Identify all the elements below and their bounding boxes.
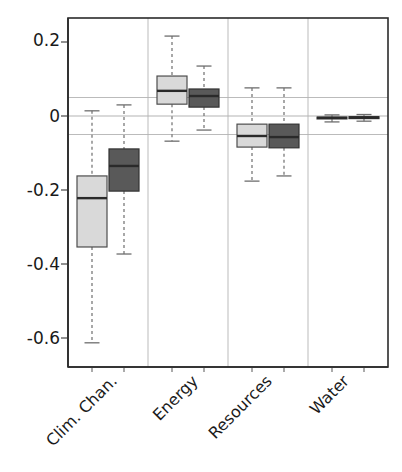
x-category-label-clim-chan: Clim. Chan. (42, 371, 121, 450)
y-tick-label-3: -0.4 (27, 254, 60, 274)
y-axis (61, 18, 68, 367)
y-tick-label-4: -0.6 (27, 328, 60, 348)
boxplot-chart: 0.2 0 -0.2 -0.4 -0.6 Clim. Chan. Energy … (0, 0, 402, 472)
x-category-label-energy: Energy (149, 371, 202, 424)
x-category-label-resources: Resources (205, 371, 276, 442)
x-category-label-water: Water (306, 371, 353, 418)
chart-canvas: 0.2 0 -0.2 -0.4 -0.6 Clim. Chan. Energy … (0, 0, 402, 472)
y-tick-label-0: 0.2 (33, 30, 60, 50)
y-tick-label-2: -0.2 (27, 180, 60, 200)
y-tick-label-1: 0 (49, 106, 60, 126)
